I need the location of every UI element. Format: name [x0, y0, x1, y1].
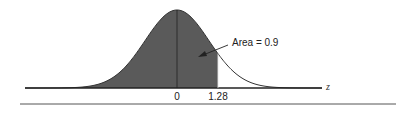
tick-label-0: 0 [174, 91, 180, 102]
tick-label-1-28: 1.28 [208, 91, 228, 102]
shaded-area [25, 10, 218, 88]
area-annotation: Area = 0.9 [232, 37, 279, 48]
x-axis-label: z [325, 81, 330, 92]
normal-curve-chart: z 0 1.28 Area = 0.9 [0, 0, 396, 115]
